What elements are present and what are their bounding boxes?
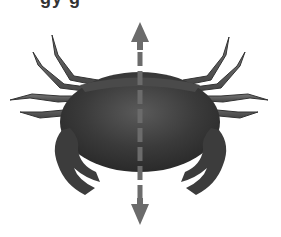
crab-figure: [0, 0, 281, 237]
arrow-up-icon: [131, 22, 149, 50]
arrow-down-icon: [131, 198, 149, 225]
